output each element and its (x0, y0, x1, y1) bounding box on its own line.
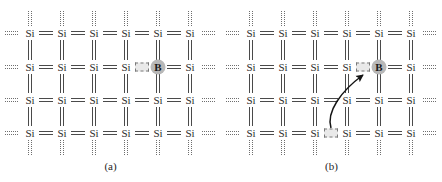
hole-source-lower-left-hole (324, 129, 338, 138)
dangling-bond-stub-bottom (313, 140, 317, 155)
lattice-a: SiSiSiSiSiSiSiSiSiSiBSiSiSiSiSiSiSiSiSiS… (0, 0, 221, 160)
bond-vertical (188, 107, 192, 126)
dangling-bond-stub-bottom (28, 140, 32, 155)
atom-label-silicon: Si (25, 128, 34, 139)
bond-horizontal (388, 31, 402, 35)
dangling-bond-stub-bottom (156, 140, 160, 155)
atom-label-silicon: Si (246, 95, 255, 106)
panel-a: SiSiSiSiSiSiSiSiSiSiBSiSiSiSiSiSiSiSiSiS… (0, 0, 221, 182)
bond-horizontal (324, 65, 338, 69)
atom-label-silicon: Si (153, 95, 162, 106)
atom-label-silicon: Si (153, 128, 162, 139)
bond-vertical (281, 107, 285, 126)
dangling-bond-stub-bottom (249, 140, 253, 155)
bond-horizontal (388, 131, 402, 135)
bond-horizontal (292, 65, 306, 69)
bond-vertical (409, 107, 413, 126)
bond-vertical (124, 40, 128, 60)
atom-label-silicon: Si (278, 95, 287, 106)
atom-label-silicon: Si (25, 28, 34, 39)
dangling-bond-stub-top (124, 11, 128, 26)
bond-horizontal (71, 31, 85, 35)
atom-label-silicon: Si (185, 28, 194, 39)
lattice-edge-marker-left (226, 31, 239, 35)
atom-label-silicon: Si (185, 128, 194, 139)
bond-horizontal (39, 65, 53, 69)
bond-horizontal (292, 98, 306, 102)
dangling-bond-stub-bottom (377, 140, 381, 155)
atom-label-silicon: Si (342, 128, 351, 139)
bond-horizontal (39, 31, 53, 35)
atom-label-silicon: Si (406, 95, 415, 106)
bond-vertical (92, 74, 96, 93)
bond-horizontal (260, 98, 274, 102)
bond-horizontal (260, 65, 274, 69)
atom-label-silicon: Si (89, 28, 98, 39)
dangling-bond-stub-bottom (281, 140, 285, 155)
bond-horizontal (167, 31, 181, 35)
atom-label-silicon: Si (89, 62, 98, 73)
bond-vertical (60, 74, 64, 93)
atom-label-silicon: Si (406, 62, 415, 73)
bond-horizontal (103, 31, 117, 35)
dangling-bond-stub-top (409, 11, 413, 26)
lattice-edge-marker-left (5, 98, 18, 102)
atom-label-silicon: Si (374, 128, 383, 139)
lattice-edge-marker-right (202, 131, 215, 135)
lattice-edge-marker-left (226, 131, 239, 135)
bond-vertical (124, 107, 128, 126)
bond-horizontal (260, 31, 274, 35)
atom-label-silicon: Si (278, 62, 287, 73)
lattice-edge-marker-left (5, 65, 18, 69)
atom-label-silicon: Si (121, 28, 130, 39)
dangling-bond-stub-bottom (92, 140, 96, 155)
bond-horizontal (71, 65, 85, 69)
atom-label-silicon: Si (278, 128, 287, 139)
bond-vertical (60, 40, 64, 60)
dangling-bond-stub-top (377, 11, 381, 26)
bond-vertical (377, 107, 381, 126)
bond-horizontal (135, 98, 149, 102)
bond-vertical (249, 107, 253, 126)
dangling-bond-stub-top (92, 11, 96, 26)
bond-horizontal (292, 31, 306, 35)
bond-horizontal (356, 98, 370, 102)
bond-horizontal (292, 131, 306, 135)
caption-b: (b) (221, 160, 442, 172)
lattice-edge-marker-right (202, 31, 215, 35)
bond-vertical (249, 40, 253, 60)
atom-label-silicon: Si (246, 28, 255, 39)
lattice-edge-marker-left (5, 31, 18, 35)
bond-vertical (313, 107, 317, 126)
bond-horizontal (103, 131, 117, 135)
panel-b: SiSiSiSiSiSiSiSiSiSiBSiSiSiSiSiSiSiSiSiS… (221, 0, 442, 182)
lattice-edge-marker-right (423, 31, 436, 35)
bond-vertical (28, 40, 32, 60)
atom-label-silicon: Si (25, 95, 34, 106)
bond-vertical (92, 40, 96, 60)
atom-label-silicon: Si (121, 128, 130, 139)
lattice-edge-marker-right (202, 98, 215, 102)
atom-label-silicon: Si (374, 95, 383, 106)
bond-horizontal (103, 98, 117, 102)
bond-vertical (156, 74, 160, 93)
bond-vertical (409, 40, 413, 60)
bond-vertical (124, 74, 128, 93)
atom-label-silicon: Si (89, 95, 98, 106)
hole-at-boron-hole (135, 63, 149, 72)
bond-vertical (281, 74, 285, 93)
bond-vertical (28, 107, 32, 126)
bond-vertical (377, 40, 381, 60)
dangling-bond-stub-top (345, 11, 349, 26)
atom-label-silicon: Si (153, 28, 162, 39)
bond-vertical (156, 107, 160, 126)
lattice-edge-marker-right (423, 131, 436, 135)
bond-vertical (313, 40, 317, 60)
atom-label-silicon: Si (246, 128, 255, 139)
atom-label-dopant: B (375, 62, 382, 73)
bond-vertical (313, 74, 317, 93)
figure-boron-doped-silicon: SiSiSiSiSiSiSiSiSiSiBSiSiSiSiSiSiSiSiSiS… (0, 0, 442, 182)
dangling-bond-stub-bottom (345, 140, 349, 155)
bond-vertical (188, 74, 192, 93)
bond-vertical (409, 74, 413, 93)
